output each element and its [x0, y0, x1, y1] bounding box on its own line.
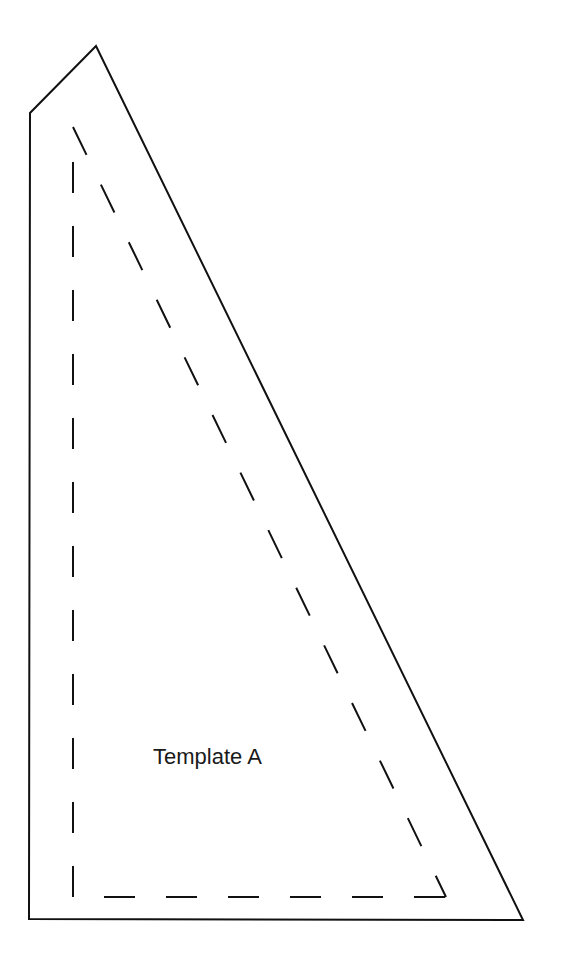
seam-line-diagonal — [73, 127, 446, 897]
template-outline — [29, 46, 523, 920]
template-diagram — [0, 0, 584, 961]
template-label: Template A — [153, 746, 262, 768]
